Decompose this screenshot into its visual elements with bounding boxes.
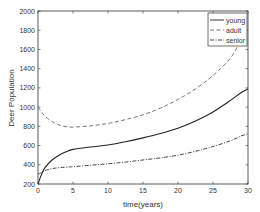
legend-label-young: young	[226, 17, 245, 25]
legend-label-senior: senior	[226, 37, 246, 44]
y-tick-label: 1200	[19, 84, 35, 91]
y-tick-label: 1600	[19, 46, 35, 53]
y-tick-label: 1800	[19, 27, 35, 34]
y-tick-label: 800	[23, 123, 35, 130]
legend-label-adult: adult	[226, 27, 241, 34]
plot-area	[38, 29, 248, 184]
x-tick-label: 0	[36, 187, 40, 194]
x-axis-label: time(years)	[123, 200, 163, 209]
y-tick-label: 200	[23, 181, 35, 188]
y-tick-label: 1400	[19, 65, 35, 72]
line-chart: 0510152025302004006008001000120014001600…	[0, 0, 260, 212]
y-tick-label: 600	[23, 142, 35, 149]
y-tick-label: 2000	[19, 8, 35, 15]
x-tick-label: 10	[104, 187, 112, 194]
x-tick-label: 15	[139, 187, 147, 194]
x-tick-label: 20	[174, 187, 182, 194]
x-tick-label: 30	[244, 187, 252, 194]
series-line-young	[38, 89, 248, 184]
series-line-senior	[38, 134, 248, 174]
y-axis-label: Deer Population	[7, 69, 16, 126]
x-tick-label: 5	[71, 187, 75, 194]
y-tick-label: 1000	[19, 104, 35, 111]
y-tick-label: 400	[23, 161, 35, 168]
x-tick-label: 25	[209, 187, 217, 194]
legend: youngadultsenior	[208, 13, 247, 46]
